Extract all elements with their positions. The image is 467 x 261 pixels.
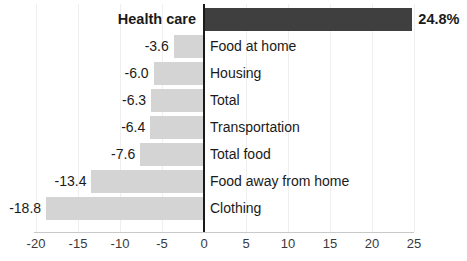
bar-category-label: Health care [118, 6, 196, 33]
x-tick-label: 15 [323, 236, 337, 251]
bar[interactable] [154, 62, 204, 85]
x-axis-line [34, 232, 414, 233]
bar-rows: 24.8%Health care-3.6Food at home-6.0Hous… [0, 6, 467, 222]
x-tick-label: -5 [156, 236, 168, 251]
bar-value-label: -6.0 [124, 60, 153, 87]
bar-row: -3.6Food at home [0, 33, 467, 60]
x-tick-label: 10 [281, 236, 295, 251]
bar-row: 24.8%Health care [0, 6, 467, 33]
bar-category-label: Total food [210, 141, 271, 168]
bar-category-label: Total [210, 87, 240, 114]
bar-category-label: Clothing [210, 195, 261, 222]
bar-value-label: -13.4 [55, 168, 92, 195]
bar[interactable] [150, 116, 204, 139]
bar-row: -13.4Food away from home [0, 168, 467, 195]
bar-row: -6.4Transportation [0, 114, 467, 141]
bar-chart: 24.8%Health care-3.6Food at home-6.0Hous… [0, 0, 467, 261]
bar[interactable] [91, 170, 204, 193]
x-tick-label: -10 [111, 236, 130, 251]
bar-category-label: Food away from home [210, 168, 349, 195]
bar-row: -6.3Total [0, 87, 467, 114]
x-tick-label: -20 [27, 236, 46, 251]
bar-value-label: 24.8% [412, 6, 459, 33]
bar-value-label: -18.8 [9, 195, 46, 222]
bar[interactable] [140, 143, 204, 166]
x-tick-label: 0 [200, 236, 207, 251]
bar-value-label: -6.4 [121, 114, 150, 141]
x-tick-label: 20 [365, 236, 379, 251]
bar-row: -18.8Clothing [0, 195, 467, 222]
bar-row: -7.6Total food [0, 141, 467, 168]
bar-row: -6.0Housing [0, 60, 467, 87]
bar-category-label: Food at home [210, 33, 296, 60]
bar-category-label: Housing [210, 60, 261, 87]
bar[interactable] [46, 197, 204, 220]
plot-area: 24.8%Health care-3.6Food at home-6.0Hous… [0, 0, 467, 232]
x-axis: -20-15-10-50510152025 [0, 232, 467, 261]
bar[interactable] [151, 89, 204, 112]
x-tick-label: -15 [69, 236, 88, 251]
bar-category-label: Transportation [210, 114, 300, 141]
x-tick-label: 25 [407, 236, 421, 251]
bar-value-label: -7.6 [111, 141, 140, 168]
x-tick-label: 5 [242, 236, 249, 251]
bar-value-label: -3.6 [145, 33, 174, 60]
bar[interactable] [204, 8, 412, 31]
bar[interactable] [174, 35, 204, 58]
zero-axis-line [203, 4, 205, 232]
bar-value-label: -6.3 [122, 87, 151, 114]
